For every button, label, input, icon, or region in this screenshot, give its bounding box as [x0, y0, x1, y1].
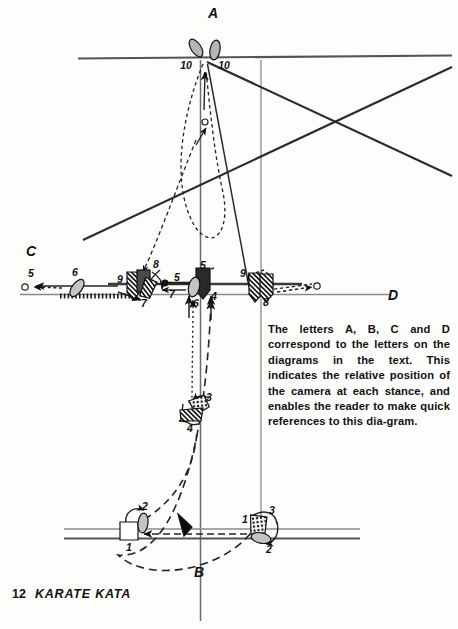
path-10-loop	[181, 64, 225, 238]
foot-4-mid	[180, 408, 203, 421]
diagonal-to-lower-left	[83, 67, 452, 240]
diagram-page: A B C D 10 10 5 6 9 8 7 7 5 5 6 4 9 8 3 …	[0, 0, 458, 629]
stance-number: 6	[193, 297, 199, 309]
stance-number: 4	[186, 422, 193, 434]
stance-number: 9	[240, 267, 246, 279]
stance-number: 3	[206, 391, 212, 403]
stance-number: 6	[72, 266, 78, 278]
stance-number: 5	[174, 271, 180, 283]
camera-label-B: B	[194, 564, 204, 580]
stance-number: 2	[265, 543, 272, 555]
stance-number: 8	[153, 258, 159, 270]
stance-number: 5	[28, 267, 34, 279]
kata-floor-diagram: A B C D 10 10 5 6 9 8 7 7 5 5 6 4 9 8 3 …	[0, 0, 458, 629]
foot-1-left	[120, 522, 138, 540]
stance-number: 7	[141, 297, 148, 309]
diagonal-camera-sight	[208, 64, 250, 287]
foot-2-left	[137, 513, 149, 534]
camera-label-A: A	[207, 5, 218, 21]
marker-circle-camera-D	[314, 283, 320, 289]
stance-number: 10	[218, 59, 230, 71]
stance-number: 1	[242, 513, 248, 525]
foot-10-left	[186, 37, 205, 59]
stance-number: 2	[141, 500, 148, 512]
movement-paths	[34, 64, 312, 571]
page-footer: 12 KARATE KATA	[12, 587, 131, 601]
axis-top-horizontal	[78, 56, 452, 59]
stance-number: 3	[269, 504, 275, 516]
path-1-to-3-left	[145, 430, 197, 519]
page-number: 12	[12, 587, 26, 601]
path-6-to-5-dotted	[34, 287, 62, 288]
foot-pivot-black	[178, 514, 192, 536]
stance-number: 1	[126, 541, 132, 553]
diagonal-to-lower-right	[207, 62, 452, 176]
path-10-arrow	[204, 72, 205, 110]
path-to-8	[143, 140, 196, 272]
stance-number-layer: 10 10 5 6 9 8 7 7 5 5 6 4 9 8 3 4 2 1 1 …	[28, 59, 275, 555]
camera-label-D: D	[388, 287, 398, 303]
marker-circle-camera-C	[22, 284, 28, 290]
camera-label-C: C	[26, 243, 37, 259]
stance-number: 10	[180, 59, 192, 71]
diagram-caption: The letters A, B, C and D correspond to …	[268, 322, 450, 430]
marker-circle-mid-top	[202, 119, 208, 125]
book-title: KARATE KATA	[35, 587, 131, 601]
stance-number: 8	[263, 296, 269, 308]
stance-number: 9	[117, 273, 123, 285]
path-4-to-6	[192, 300, 193, 413]
stance-number: 4	[210, 290, 217, 302]
stance-number: 5	[200, 259, 206, 271]
